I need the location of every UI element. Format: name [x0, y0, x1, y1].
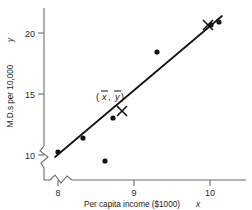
- scatter-plot-figure: 20 15 10 M.D.s per 10,000 y 8 9 10 Per c…: [0, 0, 252, 210]
- data-point: [154, 49, 159, 54]
- centroid-annotation: ( x , y ): [96, 91, 124, 102]
- x-ticklabel-9: 9: [131, 188, 136, 198]
- y-ticklabel-10: 10: [25, 151, 35, 161]
- y-ticklabel-15: 15: [25, 90, 35, 100]
- x-ticklabel-10: 10: [205, 188, 215, 198]
- centroid-ybar: y: [114, 92, 120, 102]
- regression-line: [55, 16, 222, 157]
- x-ticklabel-8: 8: [55, 188, 60, 198]
- chart-canvas: 20 15 10 M.D.s per 10,000 y 8 9 10 Per c…: [0, 0, 252, 210]
- y-axis-break: [40, 146, 48, 168]
- centroid-comma: ,: [108, 92, 111, 102]
- x-axis-variable: x: [195, 200, 201, 209]
- x-axis-break: [50, 175, 72, 183]
- centroid-paren-open: (: [96, 92, 99, 102]
- data-point: [216, 19, 221, 24]
- centroid-xbar: x: [101, 92, 107, 102]
- y-axis-title-group: M.D.s per 10,000 y: [6, 37, 15, 127]
- y-axis-variable: y: [6, 37, 15, 43]
- centroid-marker: [117, 106, 127, 116]
- centroid-paren-close: ): [121, 92, 124, 102]
- x-axis-title: Per capita income ($1000): [84, 200, 180, 209]
- data-point: [55, 149, 60, 154]
- data-point: [110, 115, 115, 120]
- data-point: [102, 158, 107, 163]
- data-point: [80, 135, 85, 140]
- y-axis-title: M.D.s per 10,000: [6, 64, 15, 127]
- y-ticklabel-20: 20: [25, 29, 35, 39]
